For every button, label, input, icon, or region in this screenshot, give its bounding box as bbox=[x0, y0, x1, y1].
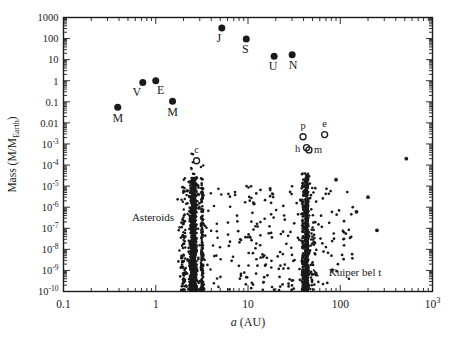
data-point bbox=[193, 181, 196, 184]
data-point bbox=[227, 193, 230, 196]
data-point bbox=[256, 222, 259, 225]
data-point bbox=[201, 252, 204, 255]
data-point bbox=[319, 237, 322, 240]
data-point bbox=[269, 195, 272, 198]
data-point bbox=[194, 277, 197, 280]
data-point bbox=[210, 192, 213, 195]
data-point bbox=[263, 217, 266, 220]
data-point bbox=[302, 194, 305, 197]
data-point bbox=[270, 213, 273, 216]
data-point bbox=[189, 228, 192, 231]
data-point bbox=[183, 285, 186, 288]
data-point bbox=[254, 225, 257, 228]
data-point bbox=[213, 282, 216, 285]
dwarf-marker-pluto bbox=[300, 134, 306, 140]
data-point bbox=[201, 280, 204, 283]
data-point bbox=[307, 259, 310, 262]
data-point bbox=[270, 201, 273, 204]
data-point bbox=[333, 237, 336, 240]
data-point bbox=[259, 234, 262, 237]
y-tick-label: 10-8 bbox=[42, 242, 59, 255]
data-point bbox=[181, 226, 184, 229]
data-point bbox=[255, 192, 258, 195]
data-point bbox=[192, 234, 195, 237]
data-point bbox=[219, 246, 222, 249]
data-point bbox=[292, 287, 295, 290]
data-point bbox=[201, 226, 204, 229]
data-point bbox=[194, 199, 197, 202]
data-point bbox=[198, 280, 201, 283]
data-point bbox=[313, 233, 316, 236]
data-point bbox=[194, 263, 197, 266]
data-point bbox=[264, 199, 267, 202]
data-point bbox=[197, 258, 200, 261]
data-point bbox=[244, 201, 247, 204]
data-point bbox=[193, 203, 196, 206]
data-point bbox=[326, 282, 329, 285]
data-point bbox=[272, 196, 275, 199]
x-tick-label: 100 bbox=[332, 298, 350, 310]
data-point bbox=[283, 263, 286, 266]
data-point bbox=[192, 274, 195, 277]
data-point bbox=[216, 230, 219, 233]
data-point bbox=[279, 285, 282, 288]
data-point bbox=[267, 232, 270, 235]
data-point bbox=[239, 238, 242, 241]
data-point bbox=[200, 256, 203, 259]
data-point bbox=[282, 230, 285, 233]
data-point bbox=[276, 255, 279, 258]
data-point bbox=[200, 229, 203, 232]
data-point bbox=[305, 203, 308, 206]
data-point bbox=[189, 285, 192, 288]
data-point bbox=[307, 270, 310, 273]
data-point bbox=[200, 208, 203, 211]
data-point bbox=[270, 259, 273, 262]
data-point bbox=[183, 178, 186, 181]
data-point bbox=[237, 230, 240, 233]
data-point bbox=[287, 267, 290, 270]
data-point bbox=[250, 287, 253, 290]
data-point bbox=[301, 224, 304, 227]
data-point bbox=[247, 252, 250, 255]
data-point bbox=[195, 190, 198, 193]
data-point bbox=[287, 234, 290, 237]
data-point bbox=[191, 240, 194, 243]
data-point bbox=[310, 244, 313, 247]
data-point bbox=[227, 233, 230, 236]
data-point bbox=[306, 219, 309, 222]
data-point bbox=[297, 213, 300, 216]
data-point bbox=[195, 232, 198, 235]
data-point bbox=[304, 178, 307, 181]
planet-label-venus: V bbox=[132, 85, 141, 99]
data-point bbox=[201, 187, 204, 190]
data-point bbox=[262, 281, 265, 284]
data-point bbox=[313, 283, 316, 286]
data-point bbox=[312, 191, 315, 194]
data-point bbox=[196, 280, 199, 283]
data-point bbox=[275, 209, 278, 212]
data-point bbox=[301, 277, 304, 280]
data-point bbox=[287, 285, 290, 288]
data-point bbox=[203, 259, 206, 262]
data-point bbox=[249, 236, 252, 239]
data-point bbox=[280, 233, 283, 236]
data-point bbox=[201, 178, 204, 181]
data-point bbox=[279, 264, 282, 267]
data-point bbox=[304, 236, 307, 239]
y-tick-label: 1000 bbox=[38, 12, 59, 23]
data-point bbox=[192, 277, 195, 280]
data-point bbox=[190, 195, 193, 198]
data-point bbox=[202, 272, 205, 275]
data-point bbox=[201, 289, 204, 292]
figure-panel: 0.111010010310001001010.10.0110-310-410-… bbox=[0, 0, 460, 343]
data-point bbox=[248, 199, 251, 202]
data-point bbox=[176, 198, 179, 201]
data-point bbox=[300, 187, 303, 190]
x-axis-title: a (AU) bbox=[231, 315, 265, 329]
data-point bbox=[317, 281, 320, 284]
planet-label-earth: E bbox=[157, 83, 164, 97]
data-point bbox=[305, 277, 308, 280]
data-point bbox=[184, 279, 187, 282]
data-point bbox=[192, 185, 195, 188]
data-point bbox=[305, 289, 308, 292]
